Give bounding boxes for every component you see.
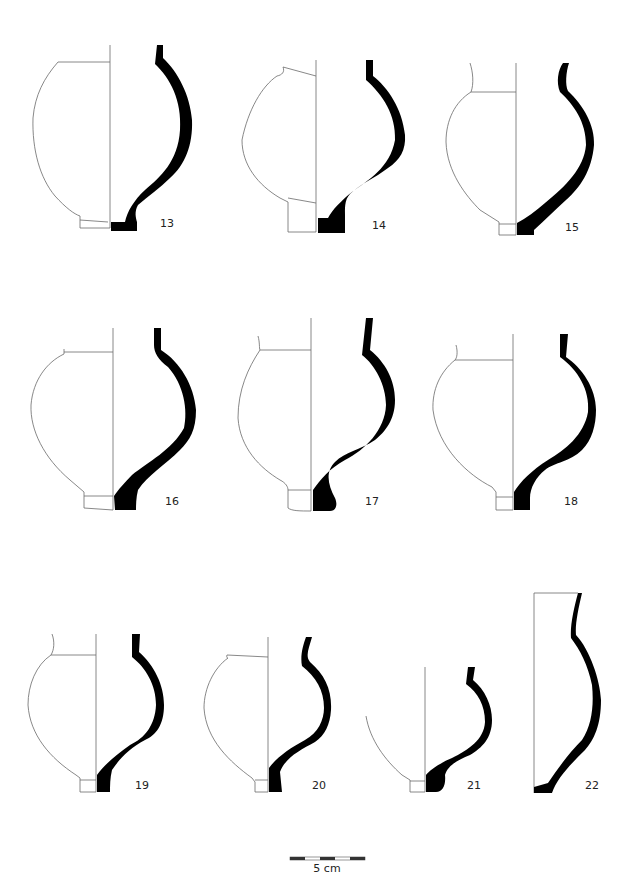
vessel-18-exterior-outline [433,345,513,510]
scale-bar-segment-3 [320,857,335,860]
vessel-19-section [97,634,164,792]
vessel-14-number: 14 [372,219,386,232]
vessel-13-exterior-outline [33,62,110,228]
scale-bar-label: 5 cm [313,862,340,875]
vessel-20: 20 [204,637,331,792]
vessel-22-number: 22 [585,779,599,792]
pottery-plate: 13 14 15 16 17 18 19 [0,0,631,876]
vessel-19-number: 19 [135,779,149,792]
vessel-18-number: 18 [564,495,578,508]
vessel-20-section [269,637,331,792]
vessel-16-section [114,328,196,510]
vessel-15: 15 [446,63,594,235]
vessel-21-section [426,667,492,792]
vessel-14-section [318,60,405,233]
vessel-16-exterior-outline [31,349,113,510]
vessel-15-section [517,63,594,235]
scale-bar: 5 cm [290,857,365,875]
scale-bar-segment-5 [350,857,365,860]
vessel-21: 21 [366,667,492,792]
vessel-14: 14 [242,60,405,233]
vessel-16-number: 16 [165,495,179,508]
scale-bar-segment-1 [290,857,305,860]
vessel-21-number: 21 [467,779,481,792]
vessel-18-section [514,334,596,510]
vessel-13-number: 13 [160,217,174,230]
vessel-22-section [534,593,601,793]
vessel-13-section [111,45,192,231]
vessel-18: 18 [433,334,596,510]
vessel-15-exterior-outline [446,63,516,235]
vessel-16: 16 [31,328,196,510]
vessel-17: 17 [238,318,395,511]
vessel-20-exterior-outline [204,655,268,792]
vessel-22: 22 [534,593,601,793]
vessel-17-number: 17 [365,495,379,508]
vessel-19: 19 [28,634,164,792]
vessel-14-exterior-outline [242,67,316,232]
vessel-21-exterior-outline [366,716,425,792]
vessel-13: 13 [33,45,192,231]
vessel-15-number: 15 [565,221,579,234]
vessel-20-number: 20 [312,779,326,792]
vessel-17-section [313,318,395,511]
vessel-17-exterior-outline [238,336,311,511]
vessel-19-exterior-outline [28,634,96,792]
